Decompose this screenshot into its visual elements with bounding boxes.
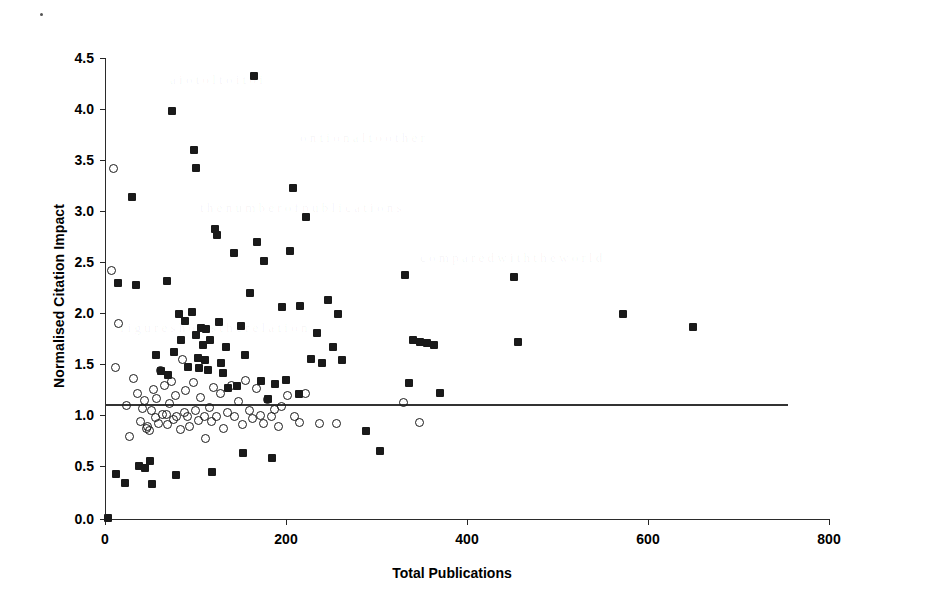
data-point-open-circle xyxy=(230,412,239,421)
data-point-open-circle xyxy=(149,385,158,394)
data-point-filled-square xyxy=(324,296,332,304)
data-point-filled-square xyxy=(188,308,196,316)
data-point-open-circle xyxy=(114,319,123,328)
data-point-open-circle xyxy=(196,393,205,402)
data-point-filled-square xyxy=(286,247,294,255)
data-point-open-circle xyxy=(252,384,261,393)
data-point-open-circle xyxy=(111,363,120,372)
data-point-open-circle xyxy=(241,376,250,385)
data-point-filled-square xyxy=(241,351,249,359)
data-point-open-circle xyxy=(176,425,185,434)
data-point-filled-square xyxy=(514,338,522,346)
data-point-filled-square xyxy=(172,471,180,479)
data-point-open-circle xyxy=(277,402,286,411)
data-point-filled-square xyxy=(289,184,297,192)
data-point-filled-square xyxy=(253,238,261,246)
data-point-filled-square xyxy=(202,325,210,333)
data-point-filled-square xyxy=(268,454,276,462)
data-point-filled-square xyxy=(237,322,245,330)
data-point-filled-square xyxy=(318,359,326,367)
data-point-open-circle xyxy=(138,404,147,413)
data-point-open-circle xyxy=(109,164,118,173)
data-point-filled-square xyxy=(121,479,129,487)
data-point-open-circle xyxy=(167,377,176,386)
data-point-open-circle xyxy=(201,434,210,443)
data-point-filled-square xyxy=(177,336,185,344)
data-point-filled-square xyxy=(329,343,337,351)
data-point-filled-square xyxy=(307,355,315,363)
data-point-open-circle xyxy=(283,391,292,400)
data-point-filled-square xyxy=(184,363,192,371)
data-point-filled-square xyxy=(313,329,321,337)
data-point-filled-square xyxy=(246,289,254,297)
data-point-open-circle xyxy=(152,394,161,403)
data-point-open-circle xyxy=(263,395,272,404)
data-point-filled-square xyxy=(195,364,203,372)
data-point-filled-square xyxy=(114,279,122,287)
data-point-open-circle xyxy=(145,426,154,435)
data-point-filled-square xyxy=(219,369,227,377)
data-point-open-circle xyxy=(227,381,236,390)
data-point-filled-square xyxy=(430,341,438,349)
data-point-open-circle xyxy=(129,374,138,383)
data-point-filled-square xyxy=(104,514,112,522)
data-point-open-circle xyxy=(216,389,225,398)
data-point-open-circle xyxy=(181,386,190,395)
data-point-open-circle xyxy=(189,378,198,387)
data-point-filled-square xyxy=(213,231,221,239)
data-point-filled-square xyxy=(204,366,212,374)
data-point-open-circle xyxy=(165,399,174,408)
data-point-filled-square xyxy=(148,480,156,488)
data-point-filled-square xyxy=(436,389,444,397)
data-point-filled-square xyxy=(250,72,258,80)
data-point-open-circle xyxy=(301,389,310,398)
data-point-filled-square xyxy=(217,359,225,367)
data-point-filled-square xyxy=(376,447,384,455)
data-point-open-circle xyxy=(122,401,131,410)
data-point-open-circle xyxy=(205,403,214,412)
data-point-filled-square xyxy=(112,470,120,478)
data-point-filled-square xyxy=(334,310,342,318)
data-point-filled-square xyxy=(206,336,214,344)
data-point-filled-square xyxy=(208,468,216,476)
data-point-filled-square xyxy=(689,323,697,331)
data-point-open-circle xyxy=(315,419,324,428)
data-point-filled-square xyxy=(168,107,176,115)
data-point-filled-square xyxy=(222,343,230,351)
data-point-filled-square xyxy=(152,351,160,359)
data-point-open-circle xyxy=(219,424,228,433)
data-point-open-circle xyxy=(295,418,304,427)
data-point-filled-square xyxy=(405,379,413,387)
data-point-filled-square xyxy=(128,193,136,201)
scatter-plot-figure: a i o t o l t o i t o i o n t i o n a l … xyxy=(0,0,931,604)
data-point-open-circle xyxy=(171,391,180,400)
data-point-filled-square xyxy=(619,310,627,318)
data-point-open-circle xyxy=(415,418,424,427)
data-point-open-circle xyxy=(140,396,149,405)
data-point-filled-square xyxy=(296,302,304,310)
data-point-filled-square xyxy=(141,464,149,472)
data-point-filled-square xyxy=(201,356,209,364)
data-point-filled-square xyxy=(302,213,310,221)
data-point-filled-square xyxy=(190,146,198,154)
data-point-filled-square xyxy=(362,427,370,435)
data-point-filled-square xyxy=(338,356,346,364)
data-point-filled-square xyxy=(239,449,247,457)
data-point-filled-square xyxy=(282,376,290,384)
data-point-filled-square xyxy=(260,257,268,265)
data-point-filled-square xyxy=(181,317,189,325)
data-point-filled-square xyxy=(132,281,140,289)
data-point-open-circle xyxy=(154,419,163,428)
data-point-filled-square xyxy=(215,318,223,326)
plot-data-area xyxy=(0,0,931,604)
data-point-open-circle xyxy=(107,266,116,275)
data-point-filled-square xyxy=(271,380,279,388)
data-point-open-circle xyxy=(238,420,247,429)
data-point-filled-square xyxy=(510,273,518,281)
data-point-open-circle xyxy=(332,419,341,428)
data-point-open-circle xyxy=(125,432,134,441)
data-point-open-circle xyxy=(399,398,408,407)
data-point-open-circle xyxy=(178,355,187,364)
data-point-filled-square xyxy=(146,457,154,465)
data-point-open-circle xyxy=(191,406,200,415)
